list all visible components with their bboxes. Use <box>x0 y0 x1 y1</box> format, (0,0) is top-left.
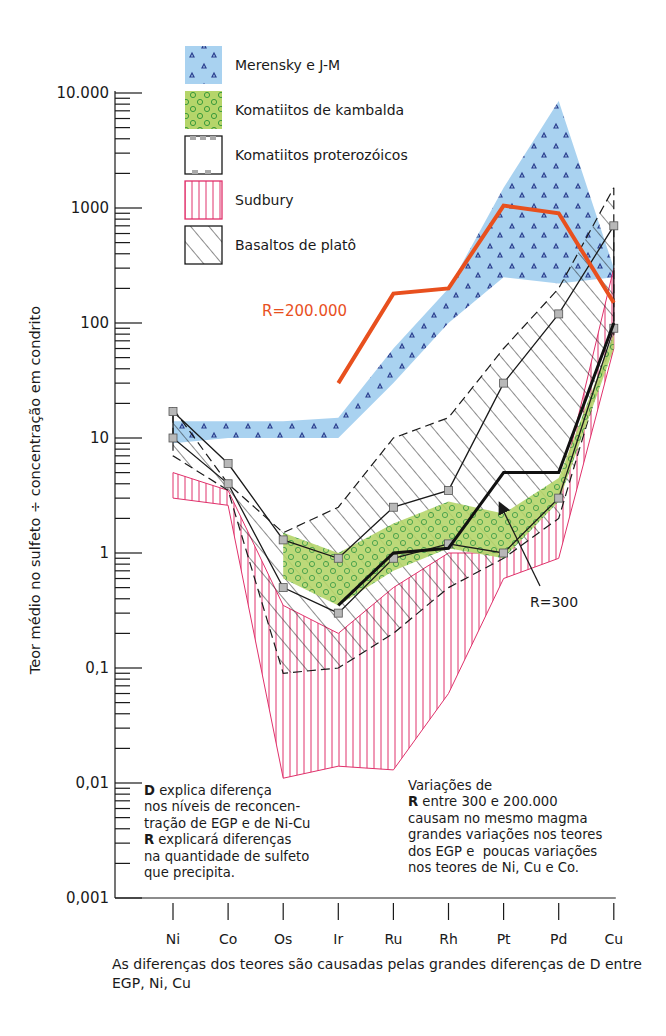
x-category-label: Cu <box>604 931 623 947</box>
y-tick-label: 0,01 <box>76 774 109 792</box>
chart: 10.00010001001010,10,010,001 NiCoOsIrRuR… <box>0 0 666 1036</box>
square-marker <box>224 460 232 468</box>
x-axis-caption: As diferenças dos teores são causadas pe… <box>112 955 652 993</box>
x-category-label: Ru <box>384 931 402 947</box>
legend-swatch-kambalda <box>185 91 222 129</box>
note-line: R entre 300 e 200.000 <box>408 794 602 810</box>
legend-item: Basaltos de platô <box>185 226 356 264</box>
legend-label: Merensky e J-M <box>235 57 340 73</box>
square-marker <box>279 536 287 544</box>
note-line: na quantidade de sulfeto <box>144 849 310 865</box>
y-tick-label: 10.000 <box>57 84 110 102</box>
note-right: Variações deR entre 300 e 200.000causam … <box>408 778 602 876</box>
square-marker <box>169 407 177 415</box>
y-axis: 10.00010001001010,10,010,001 <box>57 84 143 907</box>
note-line: R explicará diferenças <box>144 832 310 848</box>
legend-label: Komatiitos proterozóicos <box>235 147 408 163</box>
square-marker <box>500 379 508 387</box>
square-marker <box>279 584 287 592</box>
y-tick-label: 1000 <box>71 199 109 217</box>
legend-swatch-komatiitos-proterozoicos <box>185 136 222 174</box>
square-marker <box>389 503 397 511</box>
note-line: nos teores de Ni, Cu e Co. <box>408 860 602 876</box>
square-marker <box>555 494 563 502</box>
y-axis-title: Teor médio no sulfeto ÷ concentração em … <box>27 306 43 674</box>
square-marker <box>169 434 177 442</box>
y-tick-label: 1 <box>99 544 109 562</box>
legend: Merensky e J-MKomatiitos de kambaldaKoma… <box>185 46 408 264</box>
square-marker <box>500 549 508 557</box>
note-left: D explica diferençanos níveis de reconce… <box>144 783 310 881</box>
legend-item: Komatiitos de kambalda <box>185 91 404 129</box>
r200000-label: R=200.000 <box>262 302 347 320</box>
note-line: D explica diferença <box>144 783 310 799</box>
note-line: grandes variações nos teores <box>408 827 602 843</box>
x-axis: NiCoOsIrRuRhPtPdCu <box>115 898 623 947</box>
note-line: dos EGP e poucas variações <box>408 844 602 860</box>
square-marker <box>224 480 232 488</box>
square-marker <box>445 486 453 494</box>
square-marker <box>555 310 563 318</box>
r300-label: R=300 <box>530 594 578 610</box>
legend-label: Sudbury <box>235 192 293 208</box>
legend-swatch-merensky <box>185 46 222 84</box>
y-tick-label: 0,001 <box>66 889 109 907</box>
legend-label: Komatiitos de kambalda <box>235 102 404 118</box>
x-category-label: Ni <box>166 931 180 947</box>
y-tick-label: 0,1 <box>85 659 109 677</box>
square-marker <box>334 609 342 617</box>
square-marker <box>334 554 342 562</box>
y-tick-label: 100 <box>80 314 109 332</box>
x-category-label: Co <box>219 931 237 947</box>
legend-swatch-sudbury <box>185 181 222 219</box>
y-tick-label: 10 <box>90 429 109 447</box>
x-category-label: Pt <box>497 931 511 947</box>
note-line: que precipita. <box>144 865 310 881</box>
note-line: Variações de <box>408 778 602 794</box>
legend-item: Merensky e J-M <box>185 46 340 84</box>
legend-item: Komatiitos proterozóicos <box>185 136 408 174</box>
x-category-label: Os <box>274 931 292 947</box>
note-line: causam no mesmo magma <box>408 811 602 827</box>
note-line: tração de EGP e de Ni-Cu <box>144 816 310 832</box>
legend-label: Basaltos de platô <box>235 237 356 253</box>
note-line: nos níveis de reconcen- <box>144 799 310 815</box>
square-marker <box>610 222 618 230</box>
x-category-label: Pd <box>550 931 567 947</box>
x-category-label: Ir <box>333 931 343 947</box>
legend-item: Sudbury <box>185 181 293 219</box>
legend-swatch-basaltos <box>185 226 222 264</box>
x-category-label: Rh <box>439 931 458 947</box>
